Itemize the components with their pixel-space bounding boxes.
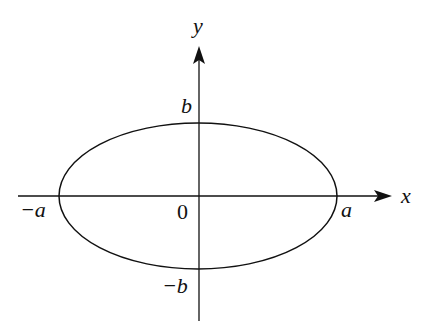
- ellipse-diagram: y x 0 b −b −a a: [0, 0, 421, 323]
- y-axis-label: y: [191, 13, 203, 38]
- x-intercept-positive-label: a: [341, 197, 352, 222]
- x-intercept-negative-label: −a: [20, 197, 46, 222]
- y-intercept-negative-label: −b: [162, 273, 188, 298]
- y-intercept-positive-label: b: [181, 93, 192, 118]
- x-axis-label: x: [400, 183, 411, 208]
- origin-label: 0: [177, 199, 188, 224]
